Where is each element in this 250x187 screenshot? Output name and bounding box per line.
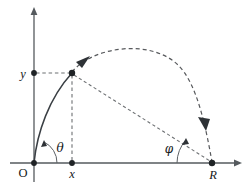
x-tick-label: x bbox=[68, 167, 75, 181]
origin-label: O bbox=[18, 166, 27, 180]
descending-dashed-trajectory bbox=[72, 49, 212, 162]
x-coordinate-point bbox=[69, 160, 75, 166]
impact-angle-arc-tip-icon bbox=[182, 138, 189, 145]
diagram-canvas: O x y R θ φ bbox=[0, 0, 250, 187]
range-label: R bbox=[208, 168, 217, 182]
impact-angle-label: φ bbox=[165, 142, 174, 156]
projectile-diagram-figure: O x y R θ φ bbox=[0, 0, 250, 187]
chord-from-point-to-range bbox=[74, 75, 210, 161]
horizontal-axis-arrowhead bbox=[234, 160, 242, 167]
launch-angle-label: θ bbox=[56, 141, 64, 155]
descent-arrowhead-icon bbox=[198, 117, 210, 131]
vertical-axis-arrowhead bbox=[31, 7, 38, 15]
range-point bbox=[209, 160, 215, 166]
y-tick-label: y bbox=[18, 67, 26, 81]
y-coordinate-point bbox=[31, 70, 37, 76]
origin-point bbox=[31, 160, 37, 166]
trajectory-point bbox=[69, 70, 75, 76]
